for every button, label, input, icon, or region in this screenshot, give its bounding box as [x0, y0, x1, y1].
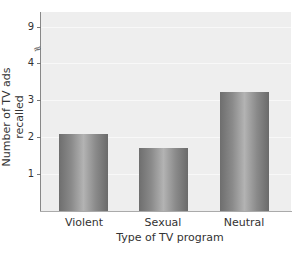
x-category-label: Neutral — [204, 216, 284, 229]
bar-neutral — [220, 92, 269, 211]
y-tick — [37, 100, 41, 101]
bar-sexual — [139, 148, 188, 211]
x-category-label: Sexual — [123, 216, 203, 229]
y-tick — [37, 63, 41, 64]
x-category-label: Violent — [44, 216, 124, 229]
y-tick — [37, 174, 41, 175]
bar-violent — [59, 134, 108, 211]
y-axis-title: Number of TV ads recalled — [0, 52, 26, 182]
x-axis-title: Type of TV program — [80, 231, 260, 244]
y-axis — [40, 12, 41, 212]
y-tick — [37, 27, 41, 28]
gridline — [41, 63, 291, 64]
gridline — [41, 27, 291, 28]
x-axis — [40, 211, 292, 212]
y-tick — [37, 137, 41, 138]
y-tick-label: 9 — [22, 21, 34, 33]
